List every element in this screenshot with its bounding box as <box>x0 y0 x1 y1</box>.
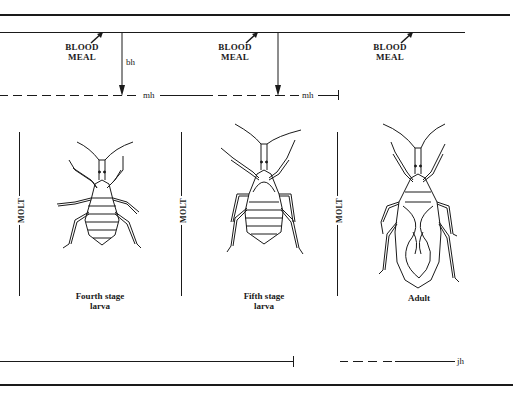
juvenile-hormone-end-tick <box>293 356 294 367</box>
brain-hormone-label: bh <box>125 57 136 67</box>
stage-label-line2: larva <box>214 301 314 311</box>
molting-hormone-solid-1 <box>160 95 205 96</box>
blood-meal-timeline <box>0 32 465 33</box>
blood-meal-label-line2: MEAL <box>360 52 420 62</box>
brain-hormone-arrow-icon <box>274 33 282 96</box>
blood-meal-label-line1: BLOOD <box>52 42 112 52</box>
blood-meal-label-2: BLOOD MEAL <box>205 42 265 62</box>
molt-label-1: MOLT <box>17 196 26 225</box>
top-border-rule <box>0 14 510 16</box>
molt-label-2: MOLT <box>179 196 188 225</box>
molting-hormone-solid-2 <box>318 95 338 96</box>
molting-hormone-label-1: mh <box>142 90 156 100</box>
stage-label-line1: Fourth stage <box>50 291 150 301</box>
blood-meal-label-1: BLOOD MEAL <box>52 42 112 62</box>
stage-label-line1: Adult <box>369 293 469 303</box>
fifth-stage-larva-illustration <box>215 122 315 262</box>
adult-illustration <box>375 122 465 292</box>
molting-hormone-dashed-2 <box>205 95 300 96</box>
fourth-stage-larva-illustration <box>55 140 145 255</box>
blood-meal-label-line2: MEAL <box>52 52 112 62</box>
molting-hormone-label-2: mh <box>301 90 315 100</box>
blood-meal-label-line1: BLOOD <box>205 42 265 52</box>
stage-label-line2: larva <box>50 301 150 311</box>
stage-label-line1: Fifth stage <box>214 291 314 301</box>
juvenile-hormone-label: jh <box>456 356 465 366</box>
molt-label-3: MOLT <box>335 196 344 225</box>
molting-hormone-dashed-1 <box>0 95 140 96</box>
molting-hormone-end-tick <box>338 90 339 100</box>
bottom-border-rule <box>0 384 513 386</box>
blood-meal-label-line2: MEAL <box>205 52 265 62</box>
stage-label-adult: Adult <box>369 293 469 303</box>
stage-label-fourth-larva: Fourth stage larva <box>50 291 150 311</box>
blood-meal-label-line1: BLOOD <box>360 42 420 52</box>
juvenile-hormone-solid-line <box>0 361 293 362</box>
juvenile-hormone-solid-tail <box>395 361 455 362</box>
blood-meal-label-3: BLOOD MEAL <box>360 42 420 62</box>
juvenile-hormone-dashed <box>340 361 395 362</box>
stage-label-fifth-larva: Fifth stage larva <box>214 291 314 311</box>
